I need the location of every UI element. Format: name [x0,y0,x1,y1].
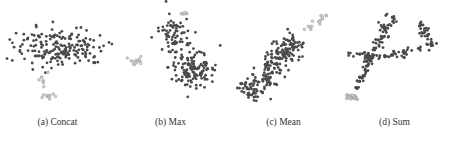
data-point [293,43,296,46]
data-point [55,40,58,43]
data-point [211,80,214,83]
data-point [31,50,34,53]
data-point [186,83,189,86]
data-point [48,98,51,101]
data-point [89,38,92,41]
data-point [199,73,202,76]
data-point [80,44,83,47]
data-point [187,63,190,66]
data-point [52,93,55,96]
data-point [45,94,48,97]
data-point [394,53,397,56]
data-point [297,59,300,62]
data-point [402,50,405,53]
data-point [429,43,432,46]
data-point [352,94,355,97]
data-point [190,81,193,84]
data-point [171,49,174,52]
data-point [266,51,269,54]
data-point [279,57,282,60]
data-point [88,44,91,47]
data-point [250,88,253,91]
data-point [264,58,267,61]
data-point [392,20,395,23]
data-point [240,90,243,93]
data-point [81,52,84,55]
data-point [77,56,80,59]
data-point [183,31,186,34]
data-point [186,57,189,60]
data-point [352,55,355,58]
data-point [367,56,370,59]
data-point [68,57,71,60]
data-point [364,55,367,58]
data-point [179,22,182,25]
data-point [263,71,266,74]
scatter-plot-mean [226,0,341,115]
data-point [187,79,190,82]
data-point [50,58,53,61]
data-point [273,67,276,70]
data-point [192,63,195,66]
data-point [70,33,73,36]
data-point [261,91,264,94]
data-point [380,37,383,40]
data-point [267,73,270,76]
data-point [64,56,67,59]
data-point [301,55,304,58]
data-point [386,13,389,16]
data-point [396,56,399,59]
data-point [58,52,61,55]
data-point [56,60,59,63]
data-point [49,60,52,63]
data-point [297,49,300,52]
data-point [287,54,290,57]
data-point [198,50,201,53]
data-point [186,68,189,71]
data-point [51,28,54,31]
data-point [150,36,153,39]
data-point [181,25,184,28]
data-point [375,54,378,57]
data-point [428,49,431,52]
data-point [419,24,422,27]
data-point [98,46,101,49]
data-point [279,63,282,66]
data-point [278,68,281,71]
data-point [420,35,423,38]
data-point [170,20,173,23]
data-point [192,60,195,63]
data-point [370,60,373,63]
data-point [417,47,420,50]
data-point [108,41,111,44]
data-point [363,69,366,72]
data-point [397,51,400,54]
data-point [270,56,273,59]
data-point [37,35,40,38]
data-point [262,74,265,77]
data-point [167,21,170,24]
data-point [78,48,81,51]
data-point [184,62,187,65]
data-point [187,44,190,47]
data-point [157,27,160,30]
data-point [371,56,374,59]
data-point [383,35,386,38]
data-point [252,73,255,76]
data-point [188,51,191,54]
data-point [426,35,429,38]
data-point [274,56,277,59]
data-point [102,44,105,47]
caption-max: (b) Max [113,117,228,127]
data-point [430,38,433,41]
data-point [76,36,79,39]
data-point [383,55,386,58]
data-point [385,55,388,58]
data-point [165,33,168,36]
data-point [266,64,269,67]
data-point [275,62,278,65]
data-point [244,85,247,88]
data-point [192,47,195,50]
data-point [27,49,30,52]
data-point [253,88,256,91]
